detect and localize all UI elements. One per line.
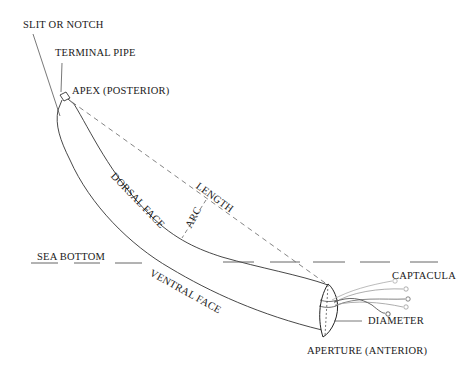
- label-sea-bottom: SEA BOTTOM: [37, 252, 105, 263]
- label-diameter: DIAMETER: [368, 316, 424, 327]
- label-aperture: APERTURE (ANTERIOR): [307, 346, 427, 357]
- label-terminal-pipe: TERMINAL PIPE: [55, 48, 136, 59]
- aperture-ellipse: [320, 284, 338, 337]
- scaphopod-diagram: SLIT OR NOTCH TERMINAL PIPE APEX (POSTER…: [0, 0, 473, 369]
- label-captacula: CAPTACULA: [392, 271, 456, 282]
- label-slit-or-notch: SLIT OR NOTCH: [23, 20, 104, 31]
- apex-shape: [58, 99, 74, 110]
- label-apex: APEX (POSTERIOR): [72, 86, 169, 97]
- captacula-tentacles: [332, 279, 410, 316]
- terminal-pipe-leader-line: [61, 63, 62, 92]
